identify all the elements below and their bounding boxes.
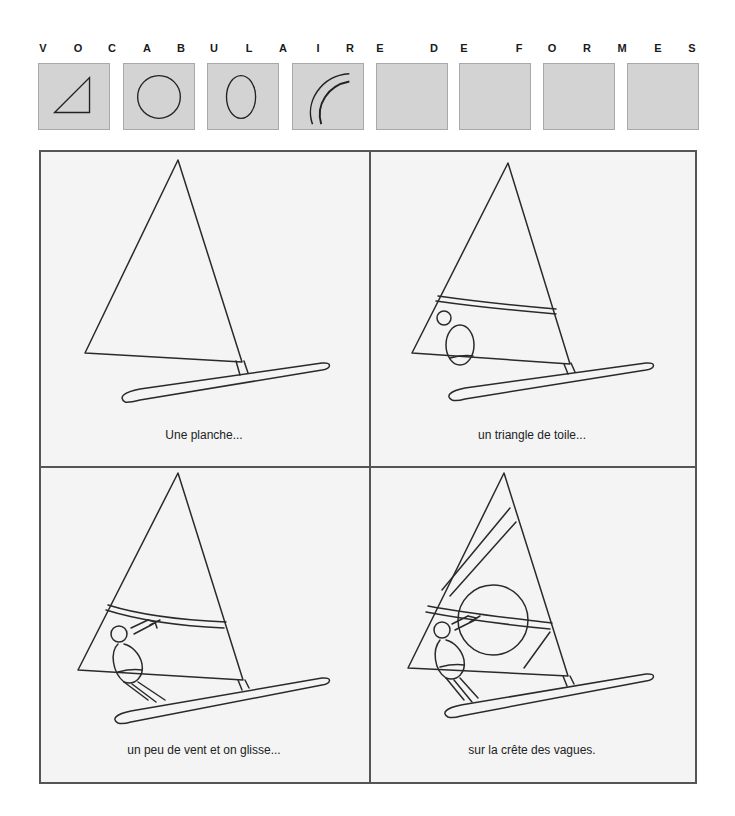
title-letter: E [457, 42, 471, 54]
panel-3-caption: un peu de vent et on glisse... [44, 743, 364, 757]
title-letter: E [373, 42, 387, 54]
title-letters: V O C A B U L A I R E D E F O R M E S [0, 42, 735, 58]
title-letter: O [71, 42, 85, 54]
triangle-icon [39, 64, 109, 129]
title-letter: U [207, 42, 221, 54]
shape-box-triangle [38, 63, 110, 130]
horizontal-divider [41, 466, 695, 468]
double-arc-icon [293, 64, 363, 129]
shape-box-empty [459, 63, 531, 130]
panel-1-caption: Une planche... [44, 428, 364, 442]
title-letter: A [276, 42, 290, 54]
title-letter: F [512, 42, 526, 54]
panel-4-caption: sur la crête des vagues. [372, 743, 692, 757]
title-letter: R [343, 42, 357, 54]
title-letter: R [580, 42, 594, 54]
title-letter: V [36, 42, 50, 54]
title-letter: C [105, 42, 119, 54]
shape-box-empty [376, 63, 448, 130]
shape-box-empty [543, 63, 615, 130]
oval-icon [208, 64, 278, 129]
title-letter: D [427, 42, 441, 54]
shape-box-circle [123, 63, 195, 130]
title-letter: B [174, 42, 188, 54]
title-letter: L [242, 42, 256, 54]
shape-box-arcs [292, 63, 364, 130]
title-letter: A [140, 42, 154, 54]
title-letter: I [311, 42, 325, 54]
title-letter: E [651, 42, 665, 54]
panel-grid [39, 150, 697, 784]
panel-2-caption: un triangle de toile... [372, 428, 692, 442]
shape-box-oval [207, 63, 279, 130]
shape-box-empty [627, 63, 699, 130]
title-letter: O [545, 42, 559, 54]
title-letter: S [685, 42, 699, 54]
circle-icon [124, 64, 194, 129]
title-letter: M [615, 42, 629, 54]
